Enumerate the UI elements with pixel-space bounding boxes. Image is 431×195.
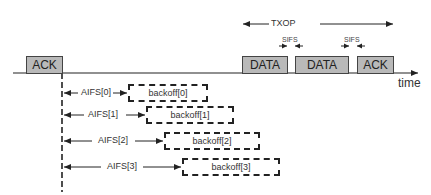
aifs-label-0: AIFS[0] xyxy=(79,87,113,97)
backoff-box-3: backoff[3] xyxy=(182,158,280,176)
aifs-label-2: AIFS[2] xyxy=(96,135,130,145)
backoff-box-1: backoff[1] xyxy=(146,106,234,124)
time-axis-label: time xyxy=(398,76,421,90)
backoff-box-0: backoff[0] xyxy=(128,84,208,102)
sifs-label-1: SIFS xyxy=(282,36,298,43)
sifs-label-2: SIFS xyxy=(344,36,360,43)
data-frame-1: DATA xyxy=(242,56,288,74)
txop-label: TXOP xyxy=(269,18,298,28)
ack-frame-initial: ACK xyxy=(26,56,63,74)
aifs-label-1: AIFS[1] xyxy=(86,109,120,119)
backoff-box-2: backoff[2] xyxy=(164,132,260,150)
data-frame-2: DATA xyxy=(295,56,349,74)
aifs-label-3: AIFS[3] xyxy=(105,161,139,171)
ack-frame-final: ACK xyxy=(357,56,394,74)
